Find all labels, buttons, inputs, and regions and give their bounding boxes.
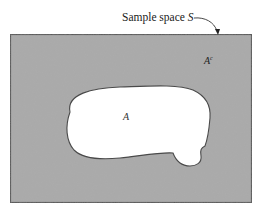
diagram-canvas <box>0 0 263 212</box>
set-a-label: A <box>123 112 129 122</box>
set-a-complement-label: Ac <box>204 55 213 66</box>
caption-symbol: S <box>188 11 194 23</box>
set-a-region <box>67 86 210 166</box>
complement-superscript: c <box>210 55 213 61</box>
caption-pointer-arrow <box>194 18 217 31</box>
complement-diagram: Sample space S A Ac <box>0 0 263 212</box>
sample-space-caption: Sample space S <box>122 12 194 24</box>
caption-text: Sample space <box>122 11 188 23</box>
